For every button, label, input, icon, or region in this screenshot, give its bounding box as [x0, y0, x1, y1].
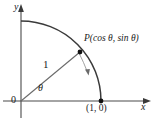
- y-axis-label: y: [14, 2, 18, 12]
- arrow-arc-direction-icon: [85, 69, 90, 76]
- arrow-up-icon: [18, 4, 24, 12]
- origin-label: 0: [11, 95, 16, 105]
- radius-segment: [21, 52, 80, 101]
- unit-circle-figure: y x 0 θ 1 P(cos θ, sin θ) (1, 0): [0, 0, 155, 120]
- point-p-label: P(cos θ, sin θ): [84, 34, 139, 44]
- radius-length-label: 1: [43, 59, 49, 70]
- unit-point-label: (1, 0): [86, 104, 107, 114]
- x-axis-label: x: [141, 102, 145, 112]
- arc-direction-line: [79, 53, 87, 71]
- figure-canvas: [0, 0, 155, 120]
- angle-theta-label: θ: [38, 83, 43, 93]
- point-p-marker: [78, 50, 83, 55]
